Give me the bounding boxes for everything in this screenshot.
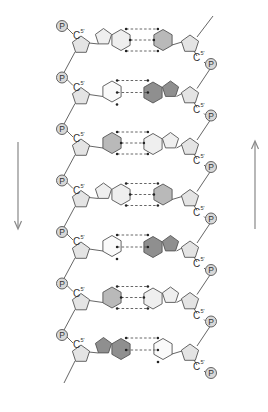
atom-dot bbox=[147, 79, 150, 82]
atom-dot bbox=[147, 91, 150, 94]
left-backbone-end bbox=[64, 361, 75, 383]
carbon5-superscript: 5' bbox=[81, 286, 85, 292]
atom-dot bbox=[129, 39, 132, 42]
left-backbone-link bbox=[64, 258, 75, 279]
carbon5-label: C bbox=[193, 52, 200, 63]
carbon5-label: C bbox=[193, 361, 200, 372]
right-backbone-link bbox=[197, 172, 210, 192]
phosphate-label: P bbox=[208, 59, 214, 69]
sugar-pentagon-right bbox=[181, 87, 198, 103]
carbon5-superscript: 5' bbox=[201, 205, 205, 211]
base-pair-row-3: PC5'PC5' bbox=[57, 124, 217, 173]
atom-dot bbox=[116, 131, 119, 134]
carbon5-label: C bbox=[73, 339, 80, 350]
sugar-pentagon-right bbox=[181, 138, 198, 154]
atom-dot bbox=[147, 246, 150, 249]
pyrimidine-hexagon-right bbox=[154, 30, 172, 51]
purine-hexagon-left bbox=[112, 30, 130, 51]
glycosidic-bond bbox=[177, 300, 183, 303]
carbon5-label: C bbox=[73, 185, 80, 196]
purine-hexagon-right bbox=[144, 288, 162, 309]
atom-dot bbox=[116, 103, 119, 106]
carbon5-superscript: 5' bbox=[201, 256, 205, 262]
glycosidic-bond bbox=[89, 249, 103, 251]
atom-dot bbox=[116, 285, 119, 288]
carbon5-superscript: 5' bbox=[81, 131, 85, 137]
atom-dot bbox=[116, 234, 119, 237]
phosphate-label: P bbox=[59, 124, 65, 134]
phosphate-label: P bbox=[208, 265, 214, 275]
base-pair-row-5: PC5'PC5' bbox=[57, 227, 217, 276]
right-backbone-link bbox=[197, 121, 210, 141]
pyrimidine-hexagon-left bbox=[103, 81, 121, 102]
carbon5-label: C bbox=[193, 104, 200, 115]
sugar-pentagon-right bbox=[181, 344, 198, 360]
carbon5-superscript: 5' bbox=[201, 102, 205, 108]
atom-dot bbox=[147, 285, 150, 288]
phosphate-label: P bbox=[208, 317, 214, 327]
phosphate-label: P bbox=[208, 111, 214, 121]
sugar-pentagon-right bbox=[181, 190, 198, 206]
glycosidic-bond bbox=[172, 197, 182, 200]
atom-dot bbox=[116, 153, 119, 156]
base-pair-row-7: PC5'PC5' bbox=[57, 330, 217, 379]
carbon5-label: C bbox=[73, 288, 80, 299]
glycosidic-bond bbox=[89, 43, 99, 44]
purine-pentagon-left bbox=[95, 183, 111, 198]
glycosidic-bond bbox=[177, 248, 183, 251]
atom-dot bbox=[116, 79, 119, 82]
atom-dot bbox=[147, 131, 150, 134]
atom-dot bbox=[157, 349, 160, 352]
atom-dot bbox=[157, 50, 160, 53]
phosphate-label: P bbox=[208, 368, 214, 378]
base-pair-row-1: PC5'PC5' bbox=[57, 21, 217, 70]
carbon5-label: C bbox=[73, 82, 80, 93]
phosphate-label: P bbox=[59, 279, 65, 289]
glycosidic-bond bbox=[89, 95, 103, 97]
pyrimidine-hexagon-left bbox=[103, 287, 121, 308]
sugar-pentagon-right bbox=[181, 293, 198, 309]
carbon5-label: C bbox=[73, 30, 80, 41]
right-backbone-link bbox=[197, 275, 210, 295]
purine-hexagon-left bbox=[112, 184, 130, 205]
glycosidic-bond bbox=[177, 94, 183, 97]
carbon5-superscript: 5' bbox=[81, 80, 85, 86]
atom-dot bbox=[120, 296, 123, 299]
carbon5-label: C bbox=[193, 155, 200, 166]
dna-diagram: PC5'PC5'PC5'PC5'PC5'PC5'PC5'PC5'PC5'PC5'… bbox=[0, 0, 268, 412]
left-backbone-link bbox=[64, 52, 75, 73]
base-pair-rows: PC5'PC5'PC5'PC5'PC5'PC5'PC5'PC5'PC5'PC5'… bbox=[57, 21, 217, 379]
atom-dot bbox=[116, 91, 119, 94]
carbon5-superscript: 5' bbox=[201, 308, 205, 314]
atom-dot bbox=[125, 337, 128, 340]
atom-dot bbox=[157, 182, 160, 185]
glycosidic-bond bbox=[177, 145, 183, 148]
carbon5-superscript: 5' bbox=[81, 337, 85, 343]
right-backbone-end bbox=[197, 16, 213, 37]
atom-dot bbox=[153, 193, 156, 196]
atom-dot bbox=[125, 182, 128, 185]
sugar-pentagon-right bbox=[181, 241, 198, 257]
carbon5-label: C bbox=[73, 133, 80, 144]
base-pair-row-2: PC5'PC5' bbox=[57, 72, 217, 121]
purine-pentagon-right bbox=[162, 287, 178, 302]
atom-dot bbox=[157, 361, 160, 364]
atom-dot bbox=[125, 349, 128, 352]
base-pair-row-4: PC5'PC5' bbox=[57, 175, 217, 224]
purine-hexagon-left bbox=[112, 339, 130, 360]
carbon5-label: C bbox=[193, 258, 200, 269]
left-backbone-link bbox=[64, 207, 75, 228]
atom-dot bbox=[125, 28, 128, 31]
dna-double-helix-svg: PC5'PC5'PC5'PC5'PC5'PC5'PC5'PC5'PC5'PC5'… bbox=[0, 0, 268, 412]
atom-dot bbox=[129, 193, 132, 196]
carbon5-label: C bbox=[193, 207, 200, 218]
carbon5-superscript: 5' bbox=[81, 183, 85, 189]
left-backbone-link bbox=[64, 310, 75, 331]
atom-dot bbox=[157, 28, 160, 31]
glycosidic-bond bbox=[89, 146, 103, 148]
right-backbone-link bbox=[197, 69, 210, 89]
phosphate-label: P bbox=[59, 330, 65, 340]
base-pair-row-6: PC5'PC5' bbox=[57, 278, 217, 327]
purine-pentagon-left bbox=[95, 338, 111, 353]
glycosidic-bond bbox=[89, 198, 99, 199]
